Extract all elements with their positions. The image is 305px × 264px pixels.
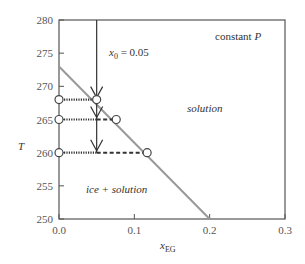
constant-p-annotation: constant P [215,30,261,42]
x-tick-label: 0.1 [127,224,141,236]
liquidus-point-marker [112,116,120,124]
x-tick-label: 0.2 [203,224,217,236]
y-axis-label: T [18,140,25,152]
x-axis-label: xEG [159,239,176,254]
x-tick-label: 0.3 [278,224,292,236]
axis-point-marker [55,116,63,124]
liquidus-point-marker [143,149,151,157]
axis-point-marker [55,96,63,104]
composition-label: x0 = 0.05 [108,46,149,61]
liquidus-point-marker [93,96,101,104]
solution-region-label: solution [187,102,223,114]
y-tick-label: 280 [37,14,54,26]
ice-solution-region-label: ice + solution [86,183,148,195]
axis-point-marker [55,149,63,157]
y-tick-label: 265 [37,114,54,126]
y-tick-label: 260 [37,147,54,159]
liquidus-line [59,66,210,219]
phase-diagram: 2502552602652702752800.00.10.20.3 T xEG … [0,0,305,264]
y-tick-label: 270 [37,80,54,92]
x-tick-label: 0.0 [52,224,66,236]
y-tick-label: 275 [37,47,54,59]
y-tick-label: 255 [37,180,54,192]
y-tick-label: 250 [37,213,54,225]
